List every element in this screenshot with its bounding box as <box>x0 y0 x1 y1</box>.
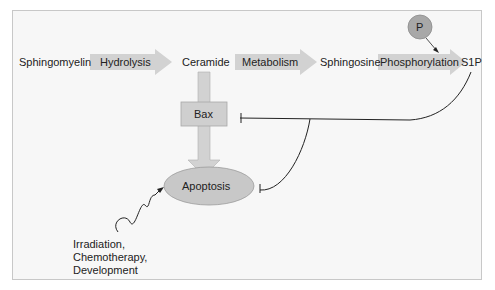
apoptosis-label: Apoptosis <box>182 180 230 193</box>
ceramide-label: Ceramide <box>182 56 230 69</box>
sphingosine-label: Sphingosine <box>320 56 381 69</box>
phosphorylation-label: Phosphorylation <box>380 56 459 69</box>
stimulus-line-1: Irradiation, <box>73 238 125 251</box>
hydrolysis-label: Hydrolysis <box>100 56 151 69</box>
s1p-label: S1P <box>461 56 482 69</box>
bax-label: Bax <box>194 108 213 121</box>
sphingomyelin-label: Sphingomyelin <box>19 56 91 69</box>
stimulus-line-2: Chemotherapy, <box>73 251 147 264</box>
phosphate-label: P <box>416 21 423 34</box>
metabolism-label: Metabolism <box>242 56 298 69</box>
apoptosis-inhibition-line <box>260 119 310 190</box>
s1p-inhibition-line <box>240 72 471 120</box>
stimulus-line-3: Development <box>73 264 138 277</box>
stimulus-wavy-arrow <box>116 190 160 232</box>
